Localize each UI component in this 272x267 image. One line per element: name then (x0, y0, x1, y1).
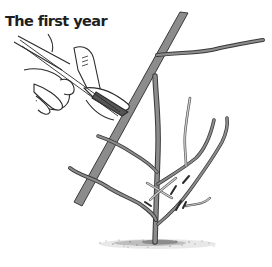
illustration-figure: The first year (0, 0, 272, 267)
hand-with-pruners-icon (14, 34, 129, 120)
cut-marks (145, 176, 189, 210)
young-tree (70, 76, 227, 242)
pruning-illustration (0, 0, 272, 267)
